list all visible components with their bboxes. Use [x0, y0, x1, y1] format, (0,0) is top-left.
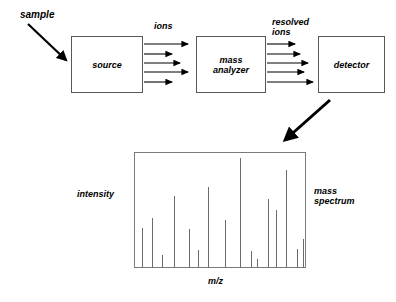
detector-to-spectrum-arrow — [285, 100, 330, 140]
sample-arrow — [28, 24, 66, 60]
arrow-overlay — [0, 0, 396, 302]
ions-arrow-bundle — [144, 44, 188, 82]
resolved-ions-arrow-bundle — [267, 44, 313, 82]
mass-spectrometry-diagram: source mass analyzer detector sample ion… — [0, 0, 396, 302]
